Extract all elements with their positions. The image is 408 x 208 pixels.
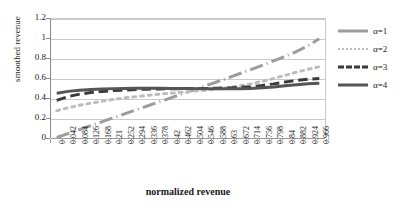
x-tick-mark	[165, 139, 166, 143]
legend-item-2[interactable]: α=2	[338, 40, 408, 58]
x-tick-mark	[50, 139, 51, 143]
y-tick-label: 0.6	[35, 73, 46, 82]
x-tick-label: 0.42	[174, 130, 182, 144]
x-tick-label: 0.63	[231, 130, 239, 144]
y-tick-label: 0.2	[35, 113, 46, 122]
x-axis: 00.0420.0840.1260.1680.210.2520.2940.336…	[50, 139, 326, 189]
x-tick-mark	[315, 139, 316, 143]
y-tick-label: 0.4	[35, 93, 46, 102]
x-tick-label: 0.084	[82, 126, 90, 144]
x-tick-mark	[303, 139, 304, 143]
y-tick-label: 0.8	[35, 53, 46, 62]
legend-item-3[interactable]: α=3	[338, 58, 408, 76]
x-tick-mark	[280, 139, 281, 143]
legend-label: α=1	[368, 27, 387, 36]
x-tick-label: 0.126	[93, 126, 101, 144]
y-tick-label: 1.2	[35, 13, 46, 22]
x-tick-label: 0.546	[208, 126, 216, 144]
x-tick-label: 0	[59, 140, 67, 144]
x-tick-label: 0.966	[323, 126, 331, 144]
y-axis: 00.20.40.60.811.2	[0, 0, 50, 156]
x-tick-mark	[269, 139, 270, 143]
x-tick-mark	[154, 139, 155, 143]
x-tick-label: 0.84	[289, 130, 297, 144]
x-tick-mark	[223, 139, 224, 143]
series-layer	[51, 19, 325, 138]
x-tick-label: 0.168	[105, 126, 113, 144]
legend-swatch-icon	[338, 62, 368, 72]
plot-area	[50, 18, 326, 138]
x-tick-mark	[326, 139, 327, 143]
x-tick-label: 0.21	[116, 130, 124, 144]
x-tick-label: 0.504	[197, 126, 205, 144]
x-tick-label: 0.462	[185, 126, 193, 144]
x-tick-mark	[108, 139, 109, 143]
x-tick-label: 0.336	[151, 126, 159, 144]
x-tick-mark	[96, 139, 97, 143]
x-axis-title: normalized revenue	[50, 186, 326, 197]
x-tick-label: 0.798	[277, 126, 285, 144]
legend-label: α=2	[368, 45, 387, 54]
x-tick-mark	[119, 139, 120, 143]
x-tick-mark	[131, 139, 132, 143]
x-tick-label: 0.378	[162, 126, 170, 144]
x-tick-label: 0.252	[128, 126, 136, 144]
x-tick-mark	[177, 139, 178, 143]
legend-label: α=4	[368, 81, 387, 90]
x-tick-label: 0.882	[300, 126, 308, 144]
x-tick-label: 0.756	[266, 126, 274, 144]
x-tick-mark	[292, 139, 293, 143]
x-tick-mark	[257, 139, 258, 143]
legend-swatch-icon	[338, 44, 368, 54]
y-axis-title: smoothed revenue	[12, 0, 22, 104]
x-tick-mark	[200, 139, 201, 143]
legend: α=1α=2α=3α=4	[338, 22, 408, 94]
legend-swatch-icon	[338, 26, 368, 36]
x-tick-mark	[142, 139, 143, 143]
x-tick-mark	[211, 139, 212, 143]
x-tick-label: 0.714	[254, 126, 262, 144]
x-tick-label: 0.588	[220, 126, 228, 144]
legend-swatch-icon	[338, 80, 368, 90]
x-tick-mark	[234, 139, 235, 143]
x-tick-label: 0.294	[139, 126, 147, 144]
legend-item-4[interactable]: α=4	[338, 76, 408, 94]
x-tick-mark	[73, 139, 74, 143]
x-tick-mark	[246, 139, 247, 143]
legend-label: α=3	[368, 63, 387, 72]
x-tick-mark	[85, 139, 86, 143]
x-tick-mark	[62, 139, 63, 143]
chart-container: 00.20.40.60.811.2 smoothed revenue 00.04…	[0, 0, 408, 208]
x-tick-label: 0.042	[70, 126, 78, 144]
x-tick-label: 0.924	[312, 126, 320, 144]
legend-item-1[interactable]: α=1	[338, 22, 408, 40]
x-tick-mark	[188, 139, 189, 143]
x-tick-label: 0.672	[243, 126, 251, 144]
